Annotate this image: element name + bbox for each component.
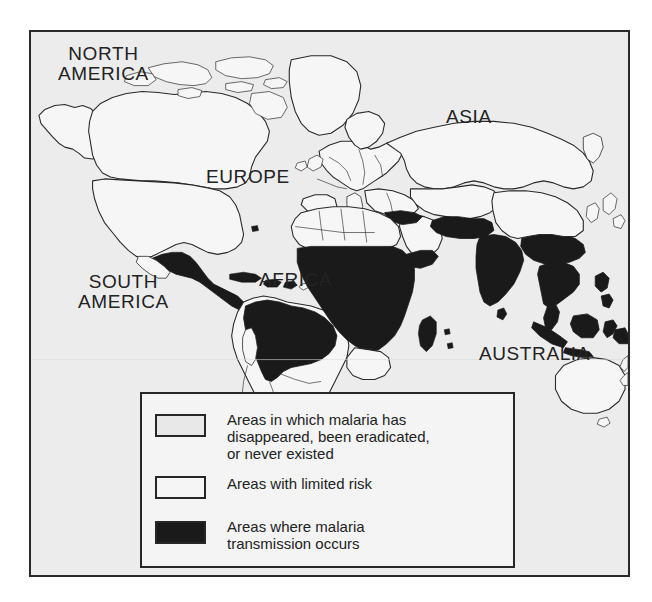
legend-label-limited-risk: Areas with limited risk xyxy=(227,475,372,492)
legend-item-limited-risk: Areas with limited risk xyxy=(155,473,372,499)
figure-root: .land{fill:#f6f6f6;stroke:#2a2a2a;stroke… xyxy=(0,0,652,602)
map-legend: Areas in which malaria has disappeared, … xyxy=(140,392,515,568)
legend-item-transmission: Areas where malaria transmission occurs xyxy=(155,518,365,552)
legend-item-no-malaria: Areas in which malaria has disappeared, … xyxy=(155,411,430,462)
legend-label-no-malaria: Areas in which malaria has disappeared, … xyxy=(227,411,430,462)
legend-swatch-limited-risk xyxy=(155,476,206,499)
map-frame: .land{fill:#f6f6f6;stroke:#2a2a2a;stroke… xyxy=(29,30,630,577)
legend-swatch-transmission xyxy=(155,521,206,544)
legend-swatch-no-malaria xyxy=(155,414,206,437)
legend-label-transmission: Areas where malaria transmission occurs xyxy=(227,518,365,552)
